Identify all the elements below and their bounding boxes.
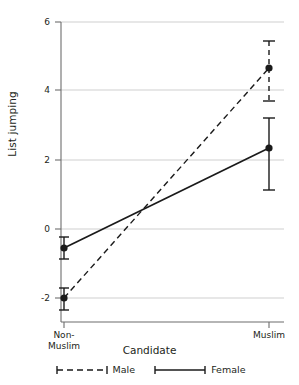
- x-axis-ticks: [64, 322, 269, 328]
- male-line: [64, 68, 269, 298]
- male-point-muslim: [265, 64, 272, 71]
- male-point-non-muslim: [60, 294, 67, 301]
- legend-swatch-dashed: [54, 365, 110, 375]
- legend-item-female: Female: [152, 363, 245, 375]
- y-tick-label-neg2: -2: [28, 293, 50, 303]
- female-point-muslim: [265, 144, 272, 151]
- x-tick-label-non-muslim: Non- Muslim: [29, 330, 99, 352]
- y-axis-ticks: [55, 22, 61, 298]
- y-tick-label-6: 6: [28, 17, 50, 27]
- legend-label-male: Male: [113, 364, 136, 375]
- y-tick-label-4: 4: [28, 85, 50, 95]
- line-chart-canvas: [0, 0, 299, 385]
- gridlines: [61, 22, 284, 298]
- female-point-non-muslim: [60, 244, 67, 251]
- legend-item-male: Male: [54, 363, 136, 375]
- female-line: [64, 148, 269, 248]
- x-tick-label-muslim: Muslim: [234, 330, 299, 341]
- female-errorbar-muslim: [263, 118, 275, 190]
- series-female: [59, 118, 275, 259]
- legend-label-female: Female: [211, 364, 245, 375]
- legend-swatch-solid: [152, 365, 208, 375]
- y-tick-label-0: 0: [28, 224, 50, 234]
- y-tick-label-2: 2: [28, 155, 50, 165]
- chart-legend: Male Female: [0, 363, 299, 375]
- y-axis-title: List jumping: [6, 64, 18, 184]
- series-male: [59, 41, 275, 310]
